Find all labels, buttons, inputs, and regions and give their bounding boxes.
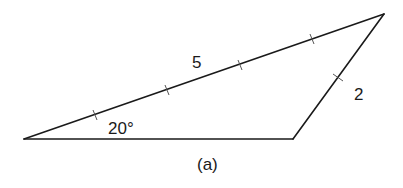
- side-bc: [293, 14, 384, 139]
- side-ab-label: 5: [192, 53, 201, 72]
- tick-marks-bc: [333, 74, 343, 81]
- triangle-diagram: 5 2 20° (a): [0, 0, 403, 188]
- side-bc-label: 2: [354, 85, 363, 104]
- side-ab: [24, 14, 384, 139]
- angle-label: 20°: [108, 119, 134, 138]
- figure-caption: (a): [197, 155, 218, 174]
